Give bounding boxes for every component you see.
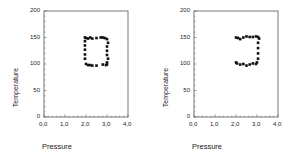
- data-point: [107, 42, 110, 45]
- x-tick-label: 0,0: [39, 121, 47, 127]
- data-point: [239, 38, 242, 41]
- data-point: [248, 63, 251, 66]
- data-point: [252, 36, 255, 39]
- data-point: [105, 64, 108, 67]
- x-tick-label: 3,0: [102, 121, 110, 127]
- plot-area-right: [150, 0, 288, 159]
- data-point: [245, 35, 248, 38]
- data-point: [84, 48, 87, 51]
- x-tick-label: 2,0: [231, 121, 239, 127]
- x-axis-label-right: Pressure: [192, 142, 222, 151]
- data-point: [84, 53, 87, 56]
- data-point: [257, 52, 260, 55]
- chart-right: Temperature Pressure 0,01,02,03,04,00501…: [150, 0, 288, 159]
- x-tick-label: 1,0: [210, 121, 218, 127]
- x-tick-label: 2,0: [81, 121, 89, 127]
- y-tick-label: 200: [30, 7, 40, 13]
- x-tick-label: 4,0: [123, 121, 131, 127]
- data-point: [257, 47, 260, 50]
- data-point: [106, 45, 109, 48]
- data-point: [252, 62, 255, 65]
- y-tick-label: 50: [183, 87, 190, 93]
- data-point: [84, 44, 87, 47]
- y-axis-label-left: Temperature: [12, 58, 19, 118]
- data-point: [84, 57, 87, 60]
- y-axis-label-right: Temperature: [162, 58, 169, 118]
- y-tick-label: 50: [33, 87, 40, 93]
- y-tick-label: 150: [30, 34, 40, 40]
- x-tick-label: 1,0: [60, 121, 68, 127]
- data-point: [258, 37, 261, 40]
- data-point: [242, 36, 245, 39]
- data-point: [91, 37, 94, 40]
- y-tick-label: 100: [30, 60, 40, 66]
- data-point: [257, 57, 260, 60]
- plot-area-left: [0, 0, 144, 159]
- data-point: [106, 38, 109, 41]
- y-tick-label: 0: [37, 113, 40, 119]
- data-point: [84, 40, 87, 43]
- data-point: [245, 64, 248, 67]
- data-point: [102, 63, 105, 66]
- data-point: [106, 49, 109, 52]
- y-tick-label: 150: [180, 34, 190, 40]
- data-point: [106, 54, 109, 57]
- data-point: [248, 36, 251, 39]
- y-tick-label: 100: [180, 60, 190, 66]
- x-tick-label: 3,0: [252, 121, 260, 127]
- chart-left: Temperature Pressure 0,01,02,03,04,00501…: [0, 0, 144, 159]
- data-point: [255, 63, 258, 66]
- y-tick-label: 0: [187, 113, 190, 119]
- data-point: [95, 64, 98, 67]
- data-point: [95, 37, 98, 40]
- data-point: [257, 42, 260, 45]
- data-point: [239, 63, 242, 66]
- data-point: [242, 63, 245, 66]
- data-point: [107, 57, 110, 60]
- x-tick-label: 4,0: [273, 121, 281, 127]
- x-axis-label-left: Pressure: [42, 142, 72, 151]
- x-tick-label: 0,0: [189, 121, 197, 127]
- data-point: [235, 61, 238, 64]
- data-point: [85, 63, 88, 66]
- y-tick-label: 200: [180, 7, 190, 13]
